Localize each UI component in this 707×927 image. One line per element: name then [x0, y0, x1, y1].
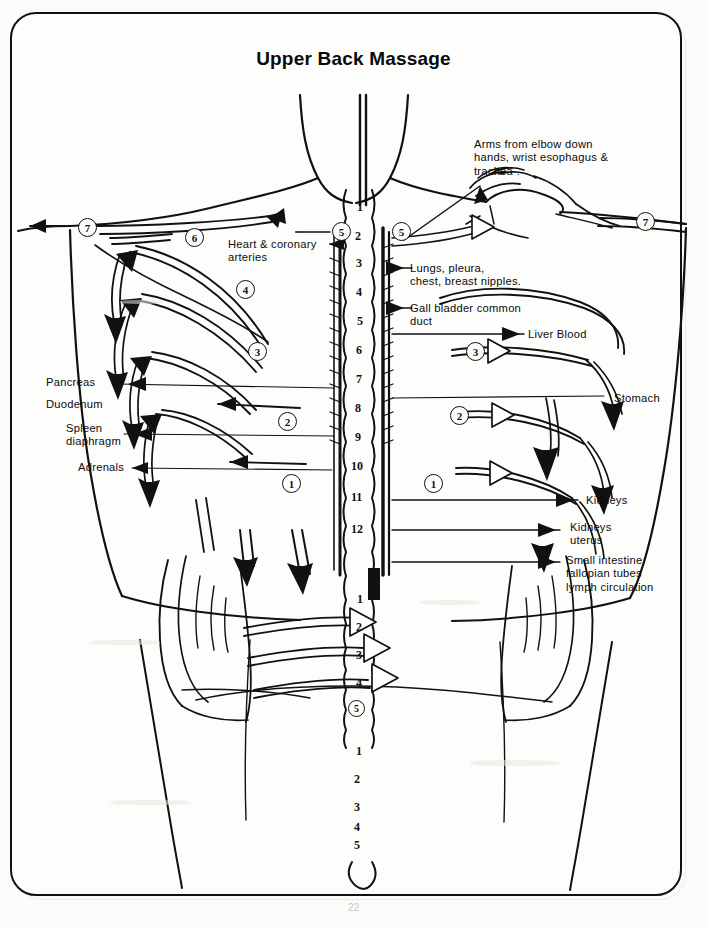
vertebra-s4: 4: [354, 820, 360, 835]
vertebra-t8: 8: [355, 401, 361, 416]
vertebra-l1: 1: [357, 592, 363, 607]
label-liver-blood: Liver Blood: [528, 328, 638, 341]
vertebra-t9: 9: [355, 430, 361, 445]
vertebra-t10: 10: [351, 459, 363, 474]
lumbar-circled-5: 5: [348, 700, 365, 717]
label-pancreas: Pancreas: [46, 376, 136, 389]
vertebra-t2: 2: [355, 229, 361, 244]
step-marker-left-1: 1: [282, 474, 301, 493]
label-spleen-diaphragm: Spleen diaphragm: [66, 422, 156, 449]
page-number: 22: [0, 902, 707, 913]
label-lungs-pleura-chest: Lungs, pleura, chest, breast nipples.: [410, 262, 560, 289]
label-arms-esophagus-trachea: Arms from elbow down hands, wrist esopha…: [474, 138, 644, 178]
vertebra-l3: 3: [356, 648, 362, 663]
label-heart-coronary-arteries: Heart & coronary arteries: [228, 238, 338, 265]
step-marker-left-4: 4: [236, 280, 255, 299]
label-gall-bladder-common-duct: Gall bladder common duct: [410, 302, 570, 329]
vertebra-s3: 3: [354, 800, 360, 815]
step-marker-right-2: 2: [450, 406, 469, 425]
paper-speck: [470, 760, 560, 766]
label-small-intestine-fallopian-lymph: Small intestine fallopian tubes lymph ci…: [566, 554, 694, 594]
vertebra-t1: 1: [357, 200, 363, 215]
label-duodenum: Duodenum: [46, 398, 146, 411]
step-marker-right-1: 1: [424, 474, 443, 493]
vertebra-t11: 11: [351, 490, 362, 505]
vertebra-s2: 2: [354, 772, 360, 787]
vertebra-t5: 5: [357, 314, 363, 329]
paper-speck: [120, 300, 164, 304]
step-marker-right-7: 7: [636, 212, 655, 231]
step-marker-left-3: 3: [248, 342, 267, 361]
vertebra-s5: 5: [354, 838, 360, 853]
step-marker-left-6: 6: [185, 228, 204, 247]
step-marker-right-3: 3: [466, 342, 485, 361]
vertebra-l4: 4: [356, 676, 362, 691]
step-marker-left-7: 7: [78, 218, 97, 237]
label-kidneys: Kidneys: [586, 494, 666, 507]
vertebra-l2: 2: [356, 620, 362, 635]
vertebra-t6: 6: [356, 343, 362, 358]
step-marker-right-5: 5: [392, 222, 411, 241]
vertebra-s1: 1: [356, 744, 362, 759]
label-stomach: Stomach: [614, 392, 694, 405]
vertebra-t12: 12: [351, 522, 363, 537]
label-adrenals: Adrenals: [78, 461, 158, 474]
paper-speck: [420, 600, 480, 605]
step-marker-left-2: 2: [278, 412, 297, 431]
vertebra-t4: 4: [356, 285, 362, 300]
paper-speck: [110, 800, 190, 805]
vertebra-t7: 7: [356, 372, 362, 387]
paper-speck: [90, 640, 160, 645]
label-kidneys-uterus: Kidneys uterus: [570, 521, 650, 548]
vertebra-t3: 3: [356, 256, 362, 271]
